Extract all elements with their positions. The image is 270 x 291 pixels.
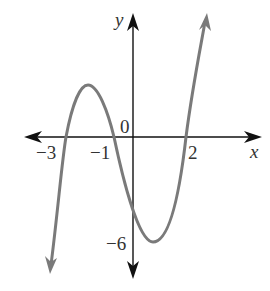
tick-label-neg1: −1 (90, 143, 110, 162)
y-axis-label: y (115, 10, 123, 29)
cubic-curve (51, 22, 205, 265)
tick-label-neg3: −3 (36, 143, 56, 162)
origin-label: 0 (120, 117, 130, 136)
tick-label-neg6: −6 (106, 234, 126, 253)
x-axis-label: x (250, 142, 258, 161)
tick-label-2: 2 (188, 143, 198, 162)
